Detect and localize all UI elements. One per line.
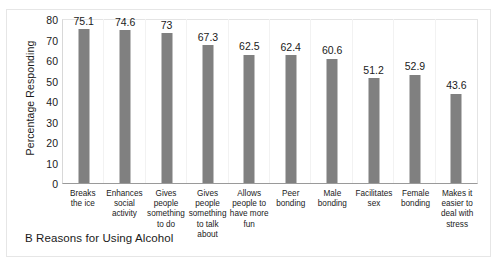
bar[interactable] — [244, 55, 255, 183]
bar-slot: 67.3 — [187, 19, 228, 183]
y-tick-label: 20 — [30, 138, 58, 149]
bar[interactable] — [451, 94, 462, 183]
bar-slot: 62.5 — [229, 19, 270, 183]
x-category-label: Allowspeople tohave morefun — [228, 189, 270, 235]
x-category-label: Malebonding — [312, 189, 354, 235]
x-category-label: Givespeoplesomethingto talk about — [187, 189, 229, 235]
figure: Percentage Responding 80706050403020100 … — [0, 0, 497, 264]
bar[interactable] — [120, 30, 131, 183]
bar-slot: 62.4 — [270, 19, 311, 183]
y-tick-label: 0 — [30, 179, 58, 190]
bar[interactable] — [409, 75, 420, 183]
bar-value-label: 51.2 — [363, 65, 383, 76]
y-tick-label: 70 — [30, 35, 58, 46]
bar-value-label: 75.1 — [73, 16, 93, 27]
bar-slot: 75.1 — [63, 19, 104, 183]
x-category-label: Makes iteasier todeal withstress — [436, 189, 478, 235]
bar-slot: 73 — [146, 19, 187, 183]
bar-value-label: 60.6 — [322, 45, 342, 56]
bar-series: 75.174.67367.362.562.460.651.252.943.6 — [63, 19, 477, 183]
bar-value-label: 52.9 — [405, 61, 425, 72]
x-category-label: Breaksthe ice — [62, 189, 104, 235]
x-category-label: Facilitatessex — [353, 189, 395, 235]
bar[interactable] — [202, 45, 213, 183]
bar-slot: 51.2 — [353, 19, 394, 183]
bar[interactable] — [327, 59, 338, 183]
y-axis-tick-labels: 80706050403020100 — [30, 19, 58, 184]
plot-area: 75.174.67367.362.562.460.651.252.943.6 — [62, 19, 478, 184]
bar[interactable] — [368, 78, 379, 183]
y-tick-label: 40 — [30, 97, 58, 108]
bar-value-label: 62.5 — [239, 41, 259, 52]
bar-value-label: 74.6 — [115, 17, 135, 28]
x-axis-category-labels: Breaksthe iceEnhancessocialactivityGives… — [62, 189, 478, 235]
bar-value-label: 43.6 — [446, 80, 466, 91]
y-tick-label: 50 — [30, 76, 58, 87]
bar[interactable] — [78, 29, 89, 183]
bar-value-label: 67.3 — [198, 32, 218, 43]
y-tick-label: 30 — [30, 117, 58, 128]
y-tick-label: 80 — [30, 15, 58, 26]
bar-slot: 74.6 — [104, 19, 145, 183]
y-tick-label: 10 — [30, 158, 58, 169]
bar-value-label: 62.4 — [281, 42, 301, 53]
bar-value-label: 73 — [161, 20, 173, 31]
x-category-label: Peerbonding — [270, 189, 312, 235]
x-category-label: Enhancessocialactivity — [104, 189, 146, 235]
bar[interactable] — [161, 33, 172, 183]
bar-slot: 60.6 — [311, 19, 352, 183]
x-category-label: Givespeoplesomethingto do — [145, 189, 187, 235]
bar-slot: 52.9 — [394, 19, 435, 183]
y-tick-label: 60 — [30, 56, 58, 67]
bar-slot: 43.6 — [436, 19, 477, 183]
x-category-label: Femalebonding — [395, 189, 437, 235]
chart-caption: B Reasons for Using Alcohol — [25, 232, 173, 244]
bar[interactable] — [285, 55, 296, 183]
